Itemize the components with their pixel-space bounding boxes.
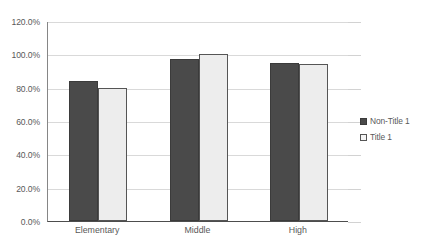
y-tick-label: 100.0% bbox=[11, 51, 40, 60]
y-tick-mark bbox=[348, 189, 361, 190]
x-axis-tick-labels: ElementaryMiddleHigh bbox=[47, 226, 348, 246]
x-tick-label: Middle bbox=[185, 226, 211, 235]
y-axis-tick-labels: 0.0%20.0%40.0%60.0%80.0%100.0%120.0% bbox=[0, 22, 44, 222]
y-tick-mark bbox=[348, 55, 361, 56]
legend-swatch-icon bbox=[360, 118, 367, 125]
x-tick-label: High bbox=[289, 226, 307, 235]
bar[interactable] bbox=[270, 63, 299, 221]
bar[interactable] bbox=[98, 88, 127, 221]
legend-item[interactable]: Non-Title 1 bbox=[360, 114, 424, 128]
legend-swatch-icon bbox=[360, 134, 367, 141]
bar[interactable] bbox=[199, 54, 228, 221]
x-tick-label: Elementary bbox=[75, 226, 120, 235]
y-tick-label: 20.0% bbox=[16, 184, 40, 193]
y-tick-mark bbox=[348, 222, 361, 223]
y-tick-label: 40.0% bbox=[16, 151, 40, 160]
y-tick-label: 80.0% bbox=[16, 84, 40, 93]
bar[interactable] bbox=[69, 81, 98, 221]
y-tick-label: 120.0% bbox=[11, 18, 40, 27]
legend-label: Non-Title 1 bbox=[370, 117, 410, 125]
chart-legend: Non-Title 1Title 1 bbox=[360, 114, 424, 146]
y-tick-mark bbox=[348, 89, 361, 90]
y-tick-mark bbox=[348, 155, 361, 156]
legend-item[interactable]: Title 1 bbox=[360, 130, 424, 144]
y-tick-label: 0.0% bbox=[21, 218, 40, 227]
y-tick-mark bbox=[348, 22, 361, 23]
bar-chart: 0.0%20.0%40.0%60.0%80.0%100.0%120.0% Ele… bbox=[0, 0, 425, 247]
y-tick-label: 60.0% bbox=[16, 118, 40, 127]
bar[interactable] bbox=[299, 64, 328, 222]
bar-group bbox=[69, 22, 127, 221]
bar-group bbox=[170, 22, 228, 221]
bars-layer bbox=[48, 22, 348, 221]
plot-area bbox=[47, 22, 348, 222]
bar[interactable] bbox=[170, 59, 199, 221]
legend-label: Title 1 bbox=[370, 133, 392, 141]
bar-group bbox=[270, 22, 328, 221]
